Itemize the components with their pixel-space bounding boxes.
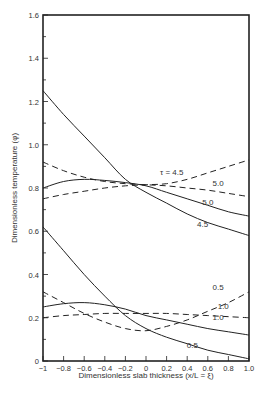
y-tick-label: 0 — [35, 357, 39, 366]
y-tick-label: 0.2 — [29, 314, 39, 323]
curve-label: 5.0 — [202, 198, 214, 207]
y-tick-label: 1.4 — [29, 54, 39, 63]
curve-label: 1.0 — [218, 302, 230, 311]
curve-label: τ = 4.5 — [160, 168, 184, 177]
curve-label: 5.0 — [213, 179, 225, 188]
chart-canvas: −1−0.8−0.6−0.4−0.200.20.40.60.81.000.20.… — [0, 0, 268, 398]
curve-label: 0.5 — [187, 341, 199, 350]
curve-solid-0.5 — [43, 227, 249, 359]
x-tick-label: −1 — [39, 364, 48, 373]
y-tick-label: 0.8 — [29, 184, 39, 193]
y-tick-label: 0.4 — [29, 271, 39, 280]
y-tick-label: 0.6 — [29, 227, 39, 236]
x-axis-label: Dimensionless slab thickness (x/L = ξ) — [78, 371, 213, 380]
curve-solid-4.5 — [43, 91, 249, 236]
curve-label: 0.5 — [213, 283, 225, 292]
curve-dashed-0.5 — [43, 292, 249, 331]
temperature-profile-chart: −1−0.8−0.6−0.4−0.200.20.40.60.81.000.20.… — [0, 0, 268, 398]
y-tick-label: 1.2 — [29, 98, 39, 107]
curve-labels: τ = 4.55.05.04.50.51.01.00.5 — [160, 168, 229, 350]
y-tick-label: 1.0 — [29, 141, 39, 150]
x-tick-label: 1.0 — [244, 364, 254, 373]
curve-label: 4.5 — [197, 220, 209, 229]
y-tick-label: 1.6 — [29, 11, 39, 20]
x-tick-label: 0.8 — [223, 364, 233, 373]
x-tick-label: −0.8 — [56, 364, 71, 373]
y-axis-label: Dimensionless temperature (φ) — [10, 133, 19, 243]
curve-label: 1.0 — [213, 313, 225, 322]
